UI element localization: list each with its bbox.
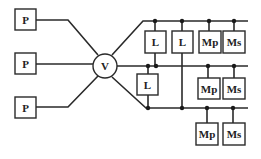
middle-load-ms: Ms bbox=[223, 78, 245, 99]
source-label: P bbox=[22, 58, 29, 70]
source-connections bbox=[36, 20, 98, 107]
load-label: Mp bbox=[202, 36, 219, 48]
top-load-ms: Ms bbox=[223, 31, 245, 53]
bottom-load-ms: Ms bbox=[223, 123, 245, 145]
source-p-3: P bbox=[15, 97, 36, 118]
source-label: P bbox=[22, 102, 29, 114]
top-load-l-2: L bbox=[172, 31, 193, 53]
top-load-l-1: L bbox=[145, 31, 166, 53]
hub-v: V bbox=[93, 54, 117, 78]
load-label: L bbox=[152, 36, 159, 48]
bottom-load-mp: Mp bbox=[196, 123, 218, 145]
top-load-mp: Mp bbox=[199, 31, 221, 53]
load-label: Ms bbox=[227, 36, 242, 48]
power-distribution-diagram: P P P V L L Mp Ms L Mp Ms bbox=[0, 0, 261, 159]
hub-label: V bbox=[101, 60, 109, 72]
load-label: L bbox=[179, 36, 186, 48]
load-label: Ms bbox=[227, 128, 242, 140]
load-label: Mp bbox=[199, 128, 216, 140]
source-label: P bbox=[22, 14, 29, 26]
load-label: Ms bbox=[227, 83, 242, 95]
middle-load-l: L bbox=[137, 74, 158, 95]
load-label: L bbox=[144, 79, 151, 91]
source-p-1: P bbox=[15, 9, 36, 30]
source-p-2: P bbox=[15, 53, 36, 74]
load-label: Mp bbox=[201, 83, 218, 95]
middle-load-mp: Mp bbox=[198, 78, 220, 99]
